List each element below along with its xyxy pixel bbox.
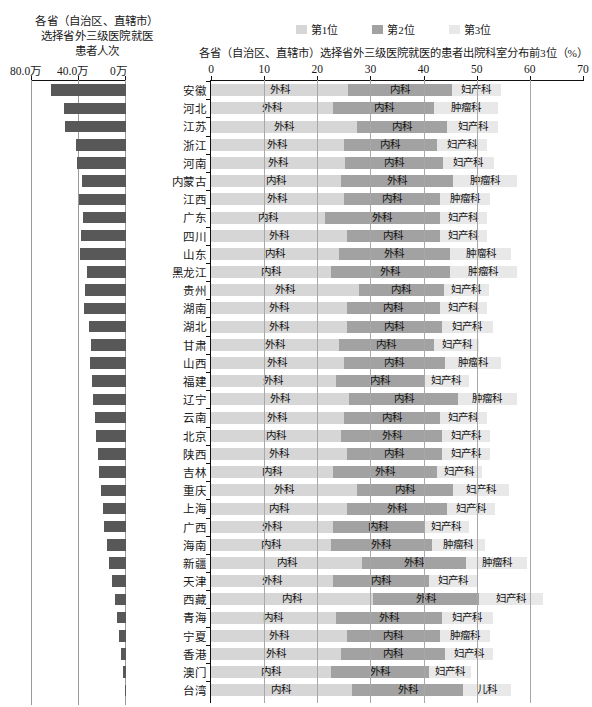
left-bar-row[interactable] [31,263,126,281]
left-bar-海南[interactable] [107,539,126,551]
bar-segment-rank2[interactable]: 内科 [345,157,443,169]
bar-segment-rank1[interactable]: 外科 [211,484,357,496]
bar-segment-rank1[interactable]: 内科 [211,212,325,224]
bar-segment-rank1[interactable]: 内科 [211,666,331,678]
bar-segment-rank3[interactable]: 妇产科 [479,593,543,605]
bar-segment-rank3[interactable]: 妇产科 [442,321,492,333]
bar-row[interactable]: 河北外科内科肿瘤科 [211,99,583,117]
bar-segment-rank2[interactable]: 内科 [344,193,440,205]
bar-segment-rank3[interactable]: 妇产科 [447,503,495,515]
bar-segment-rank2[interactable]: 外科 [341,430,442,442]
bar-segment-rank3[interactable]: 妇产科 [429,666,472,678]
left-bar-香港[interactable] [121,648,126,660]
bar-segment-rank2[interactable]: 内科 [359,284,444,296]
bar-segment-rank2[interactable]: 外科 [341,175,453,187]
bar-row[interactable]: 辽宁外科内科肿瘤科 [211,390,583,408]
left-bar-row[interactable] [31,372,126,390]
bar-segment-rank3[interactable]: 妇产科 [424,375,469,387]
left-bar-row[interactable] [31,336,126,354]
bar-segment-rank2[interactable]: 内科 [333,102,434,114]
bar-segment-rank1[interactable]: 外科 [211,139,344,151]
bar-row[interactable]: 内蒙古内科外科肿瘤科 [211,172,583,190]
bar-segment-rank1[interactable]: 内科 [211,503,347,515]
bar-segment-rank1[interactable]: 外科 [211,448,347,460]
bar-row[interactable]: 山西外科内科肿瘤科 [211,354,583,372]
left-bar-四川[interactable] [81,230,126,242]
left-bar-天津[interactable] [112,575,126,587]
bar-row[interactable]: 河南外科内科妇产科 [211,154,583,172]
bar-segment-rank3[interactable]: 妇产科 [437,139,487,151]
bar-row[interactable]: 重庆外科内科妇产科 [211,481,583,499]
left-bar-江西[interactable] [79,194,126,206]
left-bar-row[interactable] [31,117,126,135]
left-bar-row[interactable] [31,390,126,408]
bar-segment-rank3[interactable]: 妇产科 [434,339,479,351]
left-bar-row[interactable] [31,590,126,608]
left-bar-上海[interactable] [103,503,126,515]
left-bar-row[interactable] [31,608,126,626]
left-bar-云南[interactable] [95,412,126,424]
bar-segment-rank2[interactable]: 内科 [339,339,435,351]
bar-row[interactable]: 四川外科内科妇产科 [211,227,583,245]
bar-segment-rank2[interactable]: 外科 [333,466,437,478]
left-bar-row[interactable] [31,554,126,572]
bar-segment-rank2[interactable]: 内科 [333,575,429,587]
bar-segment-rank1[interactable]: 内科 [211,248,339,260]
left-bar-贵州[interactable] [85,284,126,296]
bar-segment-rank3[interactable]: 肿瘤科 [445,357,501,369]
bar-row[interactable]: 贵州外科内科妇产科 [211,281,583,299]
bar-segment-rank3[interactable]: 妇产科 [437,466,482,478]
left-bar-row[interactable] [31,499,126,517]
left-bar-row[interactable] [31,208,126,226]
bar-segment-rank1[interactable]: 外科 [211,521,333,533]
bar-row[interactable]: 江西外科内科肿瘤科 [211,190,583,208]
bar-row[interactable]: 澳门内科外科妇产科 [211,663,583,681]
bar-segment-rank2[interactable]: 外科 [352,684,464,696]
left-bar-row[interactable] [31,627,126,645]
bar-row[interactable]: 吉林内科外科妇产科 [211,463,583,481]
bar-segment-rank1[interactable]: 内科 [211,539,331,551]
left-bar-row[interactable] [31,427,126,445]
left-bar-宁夏[interactable] [119,630,126,642]
left-bar-重庆[interactable] [101,485,126,497]
bar-segment-rank3[interactable]: 妇产科 [443,157,493,169]
left-bar-row[interactable] [31,154,126,172]
bar-row[interactable]: 广东内科外科妇产科 [211,208,583,226]
bar-segment-rank2[interactable]: 内科 [348,84,452,96]
left-bar-row[interactable] [31,408,126,426]
bar-segment-rank1[interactable]: 内科 [211,684,352,696]
bar-segment-rank1[interactable]: 外科 [211,230,347,242]
bar-row[interactable]: 青海内科外科妇产科 [211,608,583,626]
bar-segment-rank3[interactable]: 妇产科 [453,484,509,496]
left-bar-row[interactable] [31,681,126,699]
left-bar-浙江[interactable] [76,139,126,151]
bar-segment-rank1[interactable]: 内科 [211,175,341,187]
left-bar-row[interactable] [31,299,126,317]
bar-segment-rank3[interactable]: 肿瘤科 [453,175,517,187]
bar-segment-rank2[interactable]: 内科 [344,412,440,424]
bar-segment-rank1[interactable]: 外科 [211,302,347,314]
bar-segment-rank2[interactable]: 内科 [347,302,440,314]
bar-row[interactable]: 江苏外科内科妇产科 [211,117,583,135]
bar-row[interactable]: 台湾内科外科儿科 [211,681,583,699]
left-bar-row[interactable] [31,572,126,590]
bar-segment-rank2[interactable]: 外科 [339,248,451,260]
bar-segment-rank3[interactable]: 妇产科 [440,412,488,424]
bar-segment-rank3[interactable]: 妇产科 [440,212,488,224]
left-bar-广东[interactable] [83,212,126,224]
bar-segment-rank1[interactable]: 外科 [211,648,341,660]
bar-segment-rank3[interactable]: 妇产科 [440,302,488,314]
bar-segment-rank3[interactable]: 儿科 [463,684,511,696]
bar-segment-rank2[interactable]: 内科 [347,630,440,642]
bar-row[interactable]: 海南内科外科肿瘤科 [211,536,583,554]
left-bar-row[interactable] [31,99,126,117]
bar-segment-rank1[interactable]: 外科 [211,84,348,96]
left-bar-吉林[interactable] [99,466,126,478]
bar-segment-rank2[interactable]: 内科 [333,521,423,533]
bar-segment-rank1[interactable]: 外科 [211,193,344,205]
bar-segment-rank3[interactable]: 妇产科 [442,430,490,442]
left-bar-row[interactable] [31,172,126,190]
bar-segment-rank1[interactable]: 外科 [211,339,339,351]
left-bar-row[interactable] [31,190,126,208]
left-bar-row[interactable] [31,645,126,663]
